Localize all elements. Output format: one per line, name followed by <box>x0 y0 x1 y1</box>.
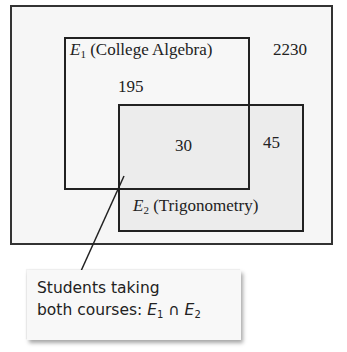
callout-set2-sub: 2 <box>194 309 200 320</box>
callout-set1-sub: 1 <box>157 309 163 320</box>
callout-set1-symbol: E <box>147 301 157 319</box>
callout-box: Students taking both courses: E1 ∩ E2 <box>27 270 241 340</box>
callout-prefix: both courses: <box>37 301 147 319</box>
intersection-operator: ∩ <box>168 301 179 319</box>
callout-line1: Students taking <box>37 277 241 299</box>
callout-line2: both courses: E1 ∩ E2 <box>37 299 241 326</box>
callout-set2-symbol: E <box>185 301 195 319</box>
